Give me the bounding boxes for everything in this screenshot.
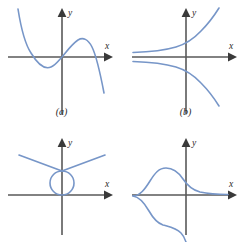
x-axis-arrow-icon (104, 53, 113, 62)
y-axis-label: y (191, 138, 197, 148)
figure-sheet: x y (a) x y (b) (0, 0, 247, 242)
x-axis-label: x (228, 179, 234, 189)
panel-a-plot: x y (0, 0, 123, 121)
panel-b-caption: (b) (124, 107, 247, 117)
x-axis-label: x (228, 41, 234, 51)
y-axis-label: y (191, 8, 197, 18)
y-axis-arrow-icon (182, 8, 191, 17)
curve-left-ray (19, 155, 62, 171)
panel-b: x y (b) (124, 0, 247, 121)
y-axis-label: y (67, 138, 73, 148)
y-axis-label: y (67, 8, 73, 18)
panel-d-plot: x y (124, 121, 247, 242)
curve-descending-tail (133, 196, 186, 242)
y-axis-arrow-icon (182, 138, 191, 147)
panel-d: x y (124, 121, 247, 242)
panel-a: x y (a) (0, 0, 123, 121)
panel-c-plot: x y (0, 121, 123, 242)
panel-b-plot: x y (124, 0, 247, 121)
curve-hump (133, 168, 228, 196)
curve-hyperbola-upper (133, 8, 219, 53)
x-axis-label: x (104, 41, 110, 51)
x-axis-arrow-icon (228, 191, 237, 200)
curve-negative-cubic (18, 9, 104, 93)
panel-c: x y (0, 121, 123, 242)
x-axis-arrow-icon (104, 191, 113, 200)
curve-right-ray (62, 155, 105, 171)
curve-hyperbola-lower (133, 62, 219, 107)
x-axis-arrow-icon (228, 53, 237, 62)
x-axis-label: x (104, 179, 110, 189)
y-axis-arrow-icon (58, 138, 67, 147)
panel-a-caption: (a) (0, 107, 123, 117)
y-axis-arrow-icon (58, 8, 67, 17)
